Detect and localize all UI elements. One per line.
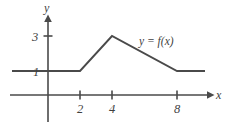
curve-equation-label: y = f(x): [138, 35, 174, 48]
function-graph-figure: 2 4 8 1 3 x y y = f(x): [0, 0, 229, 129]
y-axis-arrowhead: [44, 15, 52, 23]
y-tick-label-1: 1: [33, 65, 39, 79]
x-tick-label-4: 4: [109, 102, 115, 116]
x-axis-name-label: x: [215, 88, 222, 102]
y-axis-name-label: y: [43, 1, 50, 15]
x-tick-label-8: 8: [174, 102, 181, 116]
y-axis: [44, 15, 52, 123]
function-curve: [12, 36, 205, 71]
y-tick-label-3: 3: [31, 30, 38, 44]
graph-canvas: 2 4 8 1 3 x y y = f(x): [0, 0, 229, 129]
x-tick-label-2: 2: [77, 102, 83, 116]
x-axis-arrowhead: [207, 91, 215, 99]
